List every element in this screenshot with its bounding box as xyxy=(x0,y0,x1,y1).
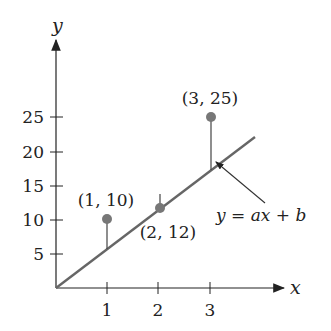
svg-text:10: 10 xyxy=(22,210,44,230)
svg-text:3: 3 xyxy=(205,300,216,320)
data-point-2 xyxy=(155,203,165,213)
chart-canvas: y x 5 10 15 20 25 1 2 3 (1, 10) (2, 12) … xyxy=(0,0,331,331)
x-axis-label: x xyxy=(290,276,301,298)
y-axis-label: y xyxy=(51,14,63,36)
equation-label: y = ax + b xyxy=(215,205,306,225)
chart: y x 5 10 15 20 25 1 2 3 (1, 10) (2, 12) … xyxy=(0,0,331,331)
svg-text:5: 5 xyxy=(33,244,44,264)
point-label-2: (2, 12) xyxy=(140,222,197,242)
svg-text:25: 25 xyxy=(22,107,44,127)
annotation-arrow xyxy=(216,162,265,203)
svg-text:15: 15 xyxy=(22,176,44,196)
data-point-3 xyxy=(206,112,216,122)
data-point-1 xyxy=(102,214,112,224)
point-label-3: (3, 25) xyxy=(182,88,239,108)
y-ticks: 5 10 15 20 25 xyxy=(22,107,63,264)
svg-text:20: 20 xyxy=(22,142,44,162)
svg-text:2: 2 xyxy=(153,300,164,320)
point-label-1: (1, 10) xyxy=(78,190,135,210)
svg-text:1: 1 xyxy=(102,300,113,320)
